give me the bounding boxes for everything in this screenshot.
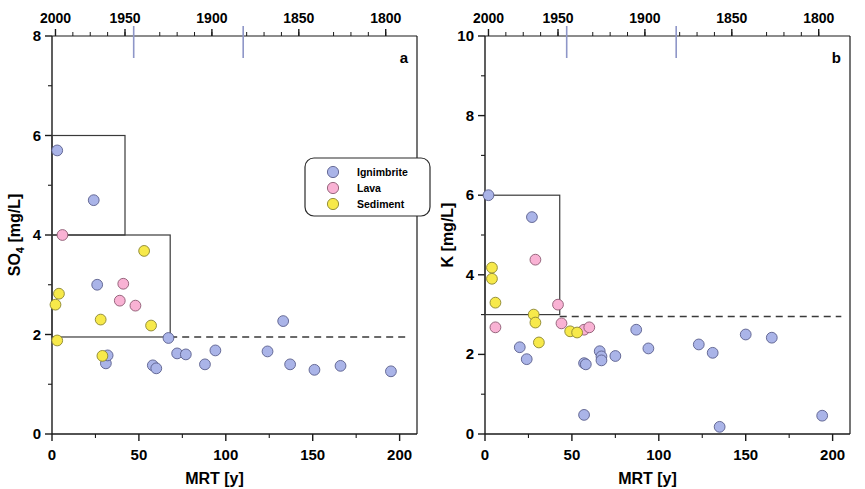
x-tick-label: 100 [213,446,238,463]
data-point [817,410,828,421]
y-tick-label: 8 [466,107,474,124]
data-point [52,335,63,346]
legend-marker [327,198,338,209]
data-point [50,299,61,310]
data-point [180,349,191,360]
panel-letter: a [400,49,409,66]
data-point [740,329,751,340]
x-tick-label: 0 [48,446,56,463]
data-point [527,212,538,223]
data-point [483,190,494,201]
y-tick-label: 6 [33,127,41,144]
data-point [146,320,157,331]
data-point [151,363,162,374]
data-point [584,322,595,333]
data-point [57,230,68,241]
x-tick-label: 0 [481,446,489,463]
y-tick-label: 2 [466,345,474,362]
data-point [596,355,607,366]
data-point [579,409,590,420]
x-axis-title: MRT [y] [618,470,677,487]
svg-text:SO4 [mg/L]: SO4 [mg/L] [6,194,26,277]
data-point [572,327,583,338]
data-point [309,364,320,375]
scatter-plot-a: 02468050100150200MRT [y]SO4 [mg/L]200019… [0,0,432,489]
top-tick-label: 1850 [283,10,314,26]
panel-letter: b [832,49,841,66]
legend-label: Sediment [357,198,405,210]
data-point [707,347,718,358]
figure-root: 02468050100150200MRT [y]SO4 [mg/L]200019… [0,0,865,489]
series-lava [57,230,141,311]
top-tick-label: 2000 [473,10,504,26]
data-point [766,332,777,343]
top-tick-label: 1900 [196,10,227,26]
data-point [285,359,296,370]
x-tick-label: 200 [820,446,845,463]
y-axis-title: K [mg/L] [439,203,456,268]
data-point [52,145,63,156]
data-point [514,342,525,353]
data-point [490,322,501,333]
data-point [610,351,621,362]
data-point [92,279,103,290]
x-tick-label: 200 [387,446,412,463]
data-point [130,300,141,311]
series-lava [490,254,595,335]
data-point [114,295,125,306]
data-point [530,254,541,265]
data-point [521,354,532,365]
data-point [693,339,704,350]
data-point [118,278,129,289]
data-point [97,350,108,361]
data-point [200,359,211,370]
x-tick-label: 100 [646,446,671,463]
data-point [278,316,289,327]
data-point [556,318,567,329]
legend-marker [327,166,338,177]
data-point [714,421,725,432]
data-point [335,360,346,371]
x-axis-title: MRT [y] [185,470,244,487]
x-tick-label: 150 [300,446,325,463]
y-tick-label: 2 [33,326,41,343]
legend-label: Lava [357,182,381,194]
data-point [262,346,273,357]
legend-marker [327,182,338,193]
data-point [533,337,544,348]
y-tick-label: 4 [33,226,42,243]
y-tick-label: 0 [33,425,41,442]
top-tick-label: 1900 [629,10,660,26]
data-point [487,262,498,273]
group-box [485,195,560,314]
top-tick-label: 1850 [716,10,747,26]
data-point [163,333,174,344]
chart-panel-a: 02468050100150200MRT [y]SO4 [mg/L]200019… [0,0,432,489]
data-point [386,366,397,377]
top-tick-label: 1800 [803,10,834,26]
chart-panel-b: 0246810050100150200MRT [y]K [mg/L]200019… [433,0,865,489]
x-tick-label: 50 [131,446,148,463]
data-point [553,299,564,310]
data-point [210,345,221,356]
data-point [88,195,99,206]
data-point [530,317,541,328]
y-axis-title: SO4 [mg/L] [6,194,26,277]
data-point [580,359,591,370]
scatter-plot-b: 0246810050100150200MRT [y]K [mg/L]200019… [433,0,865,489]
top-tick-label: 1950 [542,10,573,26]
y-tick-label: 10 [457,27,474,44]
data-point [95,314,106,325]
y-tick-label: 6 [466,186,474,203]
y-tick-label: 0 [466,425,474,442]
top-tick-label: 1950 [109,10,140,26]
data-point [490,297,501,308]
data-point [487,273,498,284]
top-tick-label: 1800 [370,10,401,26]
x-tick-label: 150 [733,446,758,463]
top-tick-label: 2000 [40,10,71,26]
y-tick-label: 8 [33,27,41,44]
svg-text:K [mg/L]: K [mg/L] [439,203,456,268]
data-point [139,246,150,257]
legend: IgnimbriteLavaSediment [305,158,430,216]
